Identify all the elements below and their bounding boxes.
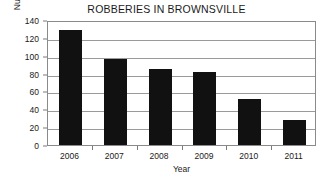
x-tick-label-2008: 2008 xyxy=(150,151,169,161)
chart-title: ROBBERIES IN BROWNSVILLE xyxy=(0,3,333,15)
y-tick-label: 120 xyxy=(25,34,39,44)
y-tick-label: 140 xyxy=(25,16,39,26)
y-axis: 020406080100120140 xyxy=(0,21,47,146)
x-axis-title: Year xyxy=(47,164,316,174)
bar-2007 xyxy=(104,59,127,145)
bars-layer xyxy=(48,22,315,145)
y-tick-label: 20 xyxy=(30,123,39,133)
y-tick-label: 80 xyxy=(30,70,39,80)
x-tick-mark xyxy=(271,146,272,150)
x-tick-mark xyxy=(92,146,93,150)
x-tick-mark xyxy=(226,146,227,150)
y-tick-label: 100 xyxy=(25,52,39,62)
y-tick-label: 60 xyxy=(30,87,39,97)
x-tick-mark xyxy=(182,146,183,150)
x-axis: 200620072008200920102011 xyxy=(47,146,316,162)
bar-2009 xyxy=(193,72,216,145)
bar-chart: ROBBERIES IN BROWNSVILLE Number of robbe… xyxy=(0,0,333,185)
x-tick-label-2011: 2011 xyxy=(284,151,302,161)
x-tick-label-2010: 2010 xyxy=(239,151,258,161)
x-tick-mark xyxy=(137,146,138,150)
bar-2006 xyxy=(59,30,82,145)
x-tick-label-2009: 2009 xyxy=(194,151,213,161)
bar-2010 xyxy=(238,99,261,145)
plot-area xyxy=(47,21,316,146)
y-tick-label: 40 xyxy=(30,105,39,115)
bar-2011 xyxy=(283,120,306,145)
x-tick-label-2007: 2007 xyxy=(105,151,124,161)
y-tick-label: 0 xyxy=(34,141,39,151)
bar-2008 xyxy=(149,69,172,145)
x-tick-label-2006: 2006 xyxy=(60,151,79,161)
